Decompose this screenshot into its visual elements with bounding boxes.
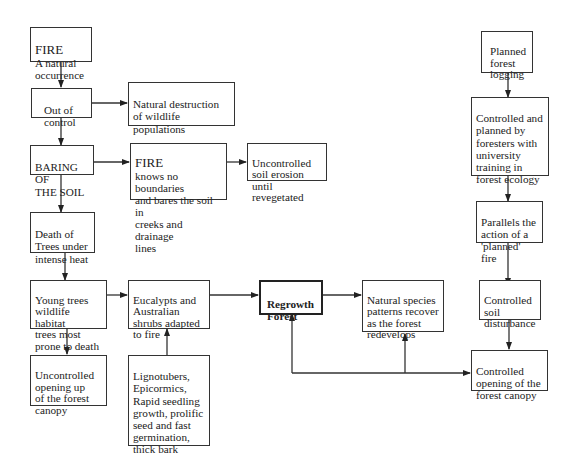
node-text: Young trees wildlife habitat trees most … <box>35 294 99 352</box>
node-planned-logging: Planned forest logging <box>481 31 533 73</box>
node-text: Out of control <box>44 104 76 129</box>
node-text: Planned forest logging <box>490 45 526 81</box>
node-lignotubers: Lignotubers, Epicormics, Rapid seedling … <box>128 355 210 446</box>
node-text: knows no boundaries and bares the soil i… <box>135 170 213 254</box>
node-text: Controlled soil disturbance <box>484 294 536 330</box>
node-text: Controlled and planned by foresters with… <box>476 112 543 185</box>
node-text: Uncontrolled soil erosion until revegeta… <box>252 157 311 204</box>
flowchart-canvas: FIREA natural occurrence Out of control … <box>0 0 577 462</box>
node-parallels-fire: Parallels the action of a 'planned' fire <box>476 201 543 243</box>
node-fire-no-boundaries: FIREknows no boundaries and bares the so… <box>130 143 227 200</box>
node-young-trees: Young trees wildlife habitat trees most … <box>30 280 107 329</box>
node-regrowth-forest: Regrowth Forest <box>259 280 323 315</box>
node-text: Death of Trees under intense heat <box>35 228 88 265</box>
node-uncontrolled-opening: Uncontrolled opening up of the forest ca… <box>30 355 107 406</box>
node-text: Lignotubers, Epicormics, Rapid seedling … <box>133 370 203 455</box>
node-natural-species: Natural species patterns recover as the … <box>362 280 444 332</box>
node-uncontrolled-erosion: Uncontrolled soil erosion until revegeta… <box>247 143 327 181</box>
node-controlled-opening: Controlled opening of the forest canopy <box>471 350 548 391</box>
node-eucalypts: Eucalypts and Australian shrubs adapted … <box>128 280 210 329</box>
node-text: Controlled opening of the forest canopy <box>476 365 541 401</box>
node-heading: FIRE <box>35 43 87 57</box>
node-text: A natural occurrence <box>35 57 84 82</box>
node-fire-natural: FIREA natural occurrence <box>30 27 92 62</box>
node-controlled-soil: Controlled soil disturbance <box>479 280 541 320</box>
node-out-of-control: Out of control <box>31 88 92 118</box>
node-baring-soil: BARING OF THE SOIL <box>30 145 94 175</box>
node-heading: FIRE <box>135 156 222 170</box>
node-controlled-planned: Controlled and planned by foresters with… <box>471 97 549 176</box>
node-natural-destruction: Natural destruction of wildlife populati… <box>128 82 235 126</box>
node-death-of-trees: Death of Trees under intense heat <box>30 212 95 253</box>
